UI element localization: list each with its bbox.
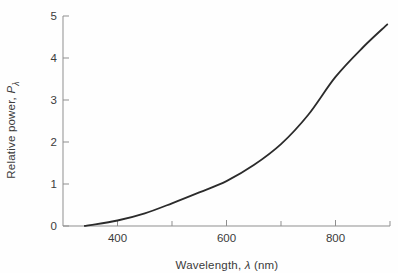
y-axis-label-text: Relative power,	[5, 94, 17, 179]
y-axis-label-subscript: λ	[11, 81, 21, 85]
x-tick-label: 400	[108, 232, 127, 244]
spd-curve	[85, 24, 388, 226]
x-axis-label-text: Wavelength,	[176, 259, 245, 271]
x-axis-label: Wavelength, λ (nm)	[176, 259, 279, 271]
plot-area: 012345400600800	[0, 0, 398, 273]
y-axis-label: Relative power, Pλ	[5, 81, 20, 178]
y-tick-label: 0	[51, 220, 57, 232]
x-axis-label-units: (nm)	[251, 259, 279, 271]
x-tick-label: 800	[326, 232, 345, 244]
spectral-power-figure: Relative power, Pλ 012345400600800 Wavel…	[0, 0, 398, 273]
y-tick-label: 3	[51, 94, 57, 106]
x-tick-label: 600	[217, 232, 236, 244]
y-tick-label: 5	[51, 10, 57, 22]
y-tick-label: 2	[51, 136, 57, 148]
y-tick-label: 4	[51, 52, 58, 64]
y-axis-label-symbol: P	[5, 86, 17, 94]
y-tick-label: 1	[51, 178, 57, 190]
